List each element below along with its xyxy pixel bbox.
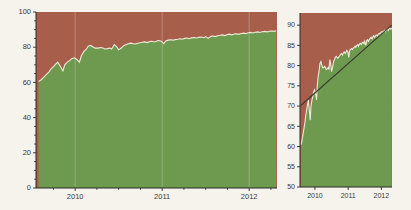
tick-label: 80 <box>287 62 295 69</box>
tick-label: 80 <box>23 42 31 51</box>
tick-label: 2011 <box>154 192 170 201</box>
tick-label: 0 <box>27 183 31 192</box>
tick-label: 2010 <box>67 192 84 201</box>
tick-label: 75 <box>287 82 295 89</box>
tick-label: 20 <box>23 148 31 157</box>
tick-label: 2010 <box>307 192 323 199</box>
tick-label: 65 <box>287 123 295 130</box>
tick-label: 60 <box>287 143 295 150</box>
tick-label: 2012 <box>241 192 258 201</box>
tick-label: 70 <box>287 102 295 109</box>
right-panel: 505560657075808590 201020112012 <box>287 13 392 199</box>
tick-label: 40 <box>23 113 31 122</box>
tick-label: 55 <box>287 163 295 170</box>
tick-label: 90 <box>287 21 295 28</box>
tick-label: 2011 <box>341 192 356 199</box>
right-y-ticklabels: 505560657075808590 <box>287 21 295 190</box>
two-panel-area-chart: 020406080100 201020112012 50556065707580… <box>0 0 411 210</box>
tick-label: 100 <box>18 7 31 16</box>
tick-label: 50 <box>287 183 295 190</box>
right-x-ticklabels: 201020112012 <box>307 192 389 199</box>
left-panel: 020406080100 201020112012 <box>18 7 277 201</box>
tick-label: 2012 <box>374 192 390 199</box>
tick-label: 60 <box>23 78 31 87</box>
tick-label: 85 <box>287 42 295 49</box>
